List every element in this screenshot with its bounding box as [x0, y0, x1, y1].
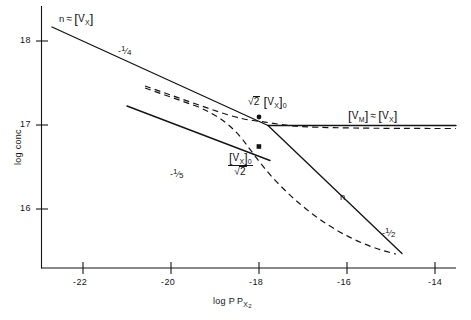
annotation-subscript-zero: 0 — [283, 102, 287, 109]
x-axis-title-p: P — [235, 296, 243, 306]
charge-dot-icon: · — [356, 107, 359, 116]
annotation-vacancy-x: V· — [382, 111, 389, 121]
annotation-vacancy-symbol: V· — [78, 14, 85, 24]
annotation-vm-equals-vx: [V·M]≈[V·X] — [348, 109, 398, 123]
charge-dot-icon: · — [237, 149, 240, 158]
charge-dot-icon: · — [271, 93, 274, 102]
slope-fifth-expr: -1⁄5 — [170, 168, 183, 180]
annotation-n-equals-vx: n≈[V·X] — [59, 12, 94, 26]
fraction-numerator: [V·X]0 — [228, 152, 253, 166]
slope-half-expr: -1⁄2 — [382, 227, 395, 239]
series-slope-quarter — [52, 27, 268, 126]
x-tick-label-20: -20 — [161, 278, 175, 287]
bracket-open-icon: [ — [260, 94, 267, 109]
annotation-subscript-zero: 0 — [248, 158, 252, 165]
y-tick-label-16: 16 — [20, 204, 31, 213]
fraction-vx0-sqrt2: [V·X]0 √2 — [228, 152, 253, 178]
slope-quarter-expr: -1⁄4 — [118, 45, 131, 57]
data-series-solid — [52, 27, 456, 254]
annotation-approx-symbol: ≈ — [369, 110, 379, 121]
bracket-close-icon: ] — [394, 108, 398, 123]
annotation-sqrt2-vx0: √2[V·X]0 — [248, 95, 287, 109]
annotation-approx-symbol: ≈ — [64, 13, 74, 24]
annotation-vacancy-x: V· — [233, 153, 240, 164]
bracket-close-icon: ] — [90, 11, 94, 26]
x-tick-label-18: -18 — [249, 278, 263, 287]
annotation-vacancy-m: V· — [352, 111, 359, 121]
radical-icon: √2 — [234, 166, 246, 178]
slope-label-fifth: -1⁄5 — [170, 168, 183, 180]
y-tick-label-18: 18 — [20, 36, 31, 45]
x-tick-label-22: -22 — [73, 278, 87, 287]
slope-label-quarter: -1⁄4 — [118, 45, 131, 57]
fraction-denominator: √2 — [228, 166, 253, 178]
radical-icon: √2 — [248, 96, 260, 107]
data-series-dashed — [145, 86, 456, 254]
marker-sqrt2-vx0 — [257, 115, 262, 120]
x-tick-label-16: -16 — [337, 278, 351, 287]
charge-dot-icon: · — [82, 10, 85, 19]
x-axis-title-prefix: log P — [213, 296, 235, 306]
y-axis-title: log conc — [14, 129, 23, 165]
data-markers — [257, 115, 262, 149]
x-tick-label-14: -14 — [428, 278, 442, 287]
x-axis-title-sub-2: 2 — [248, 303, 252, 309]
y-tick-label-17: 17 — [20, 120, 31, 129]
series-dashed-upper — [145, 86, 456, 129]
charge-dot-icon: · — [386, 107, 389, 116]
marker-vx0-over-sqrt2 — [257, 144, 262, 149]
x-axis-title: log PPX2 — [213, 297, 252, 309]
slope-label-half: -1⁄2 — [382, 227, 395, 239]
annotation-n-steep: n — [340, 192, 345, 202]
annotation-vx0-over-sqrt2: [V·X]0 √2 — [228, 152, 253, 178]
radicand-2: 2 — [239, 166, 247, 178]
brouwer-diagram-figure: 18 17 16 log conc -22 -20 -18 -16 -14 lo… — [0, 0, 471, 320]
bracket-close-icon: ] — [365, 108, 369, 123]
annotation-vacancy-x: V· — [267, 97, 274, 107]
